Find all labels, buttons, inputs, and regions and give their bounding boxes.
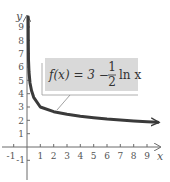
svg-text:9: 9 — [18, 22, 24, 32]
function-label-callout: f(x) = 3 − 1 2 ln x — [42, 58, 141, 110]
svg-text:2: 2 — [51, 151, 57, 161]
x-axis-label: x — [157, 150, 164, 163]
x-tick-labels: -1 1 2 3 4 5 6 7 8 9 — [7, 151, 151, 161]
svg-text:6: 6 — [18, 62, 24, 72]
svg-text:-1: -1 — [16, 155, 25, 165]
svg-text:5: 5 — [18, 76, 24, 86]
svg-text:3: 3 — [64, 151, 70, 161]
y-axis-label: y — [15, 10, 23, 23]
svg-text:4: 4 — [18, 89, 24, 99]
svg-text:-1: -1 — [7, 151, 16, 161]
svg-text:4: 4 — [77, 151, 83, 161]
svg-text:1: 1 — [18, 129, 24, 139]
callout-leader — [57, 95, 70, 110]
function-label-lhs: f(x) = 3 − — [48, 68, 109, 82]
svg-text:1: 1 — [37, 151, 43, 161]
svg-text:5: 5 — [91, 151, 97, 161]
svg-text:7: 7 — [117, 151, 123, 161]
function-label-num: 1 — [108, 60, 116, 74]
svg-text:8: 8 — [131, 151, 137, 161]
function-label-den: 2 — [108, 75, 116, 89]
function-label-rhs: ln x — [119, 68, 141, 82]
svg-text:8: 8 — [18, 36, 24, 46]
svg-text:6: 6 — [104, 151, 110, 161]
svg-text:9: 9 — [144, 151, 150, 161]
y-tick-labels: -1 1 2 3 4 5 6 7 8 9 — [16, 22, 25, 165]
chart: -1 1 2 3 4 5 6 7 8 9 -1 1 2 3 4 5 6 7 8 … — [0, 0, 170, 182]
svg-text:2: 2 — [18, 116, 24, 126]
svg-text:7: 7 — [18, 49, 24, 59]
svg-text:3: 3 — [18, 102, 24, 112]
